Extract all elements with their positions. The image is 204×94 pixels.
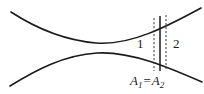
area-equation: A1=A2 — [130, 74, 164, 90]
equation-left-symbol: A — [130, 73, 138, 88]
equation-operator: = — [142, 73, 151, 88]
flow-channel-figure: 1 2 A1=A2 — [0, 0, 204, 94]
equation-right-subscript: 2 — [160, 80, 165, 90]
equation-right-symbol: A — [152, 73, 160, 88]
section-label-2: 2 — [173, 37, 180, 50]
section-label-1: 1 — [137, 37, 144, 50]
